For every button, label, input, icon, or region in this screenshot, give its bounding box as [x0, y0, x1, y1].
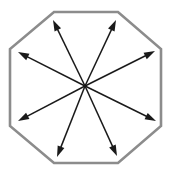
center-point — [84, 85, 86, 87]
figure-container — [0, 0, 174, 176]
octagon-arrows-figure — [0, 0, 174, 176]
